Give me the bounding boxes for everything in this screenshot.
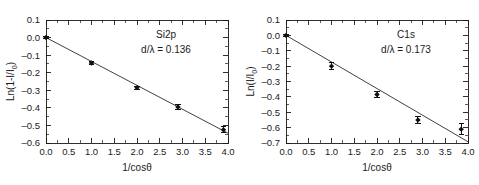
y-tick-label: –0.7 xyxy=(262,137,281,148)
y-axis-ticks-si2p xyxy=(46,20,228,143)
y-tick-label: –0.4 xyxy=(22,102,41,113)
y-tick-label: –0.2 xyxy=(262,61,281,72)
annotation-series-c1s: C1s xyxy=(397,29,415,40)
data-point xyxy=(329,63,334,70)
y-tick-label: –0.3 xyxy=(262,76,281,87)
plot-frame-si2p xyxy=(46,20,228,143)
y-tick-label: –0.1 xyxy=(262,45,281,56)
x-tick-label: 1.5 xyxy=(348,146,361,157)
x-tick-label: 4.0 xyxy=(461,146,474,157)
data-points-c1s xyxy=(283,33,464,135)
data-point xyxy=(175,104,180,109)
x-axis-ticks-si2p xyxy=(46,20,228,143)
annotation-dlambda-c1s: d/λ = 0.173 xyxy=(381,44,431,55)
y-tick-label: 0.1 xyxy=(267,14,280,25)
x-axis-label-c1s: 1/cosθ xyxy=(362,162,392,173)
y-tick-label: –0.4 xyxy=(262,91,281,102)
x-tick-label: 3.0 xyxy=(416,146,429,157)
y-axis-ticks-c1s xyxy=(286,20,468,143)
y-tick-label: –0.1 xyxy=(22,50,41,61)
data-point xyxy=(415,116,420,123)
x-axis-tick-labels-c1s: 0.00.51.01.52.02.53.03.54.0 xyxy=(279,146,474,157)
annotation-series-si2p: Si2p xyxy=(156,29,176,40)
y-axis-label-si2p: Ln(1-I/I0) xyxy=(5,62,19,101)
chart-svg-c1s: 0.00.51.01.52.02.53.03.54.0 0.10.0–0.1–0… xyxy=(240,0,479,185)
y-tick-label: –0.6 xyxy=(262,122,281,133)
x-tick-label: 0.5 xyxy=(302,146,315,157)
x-tick-label: 2.5 xyxy=(153,146,166,157)
x-tick-label: 3.0 xyxy=(176,146,189,157)
fit-line-c1s xyxy=(286,35,468,141)
x-tick-label: 1.0 xyxy=(325,146,338,157)
x-tick-label: 3.5 xyxy=(439,146,452,157)
y-tick-label: –0.3 xyxy=(22,85,41,96)
y-tick-label: –0.5 xyxy=(262,107,281,118)
y-tick-label: –0.5 xyxy=(22,120,41,131)
x-tick-label: 0.0 xyxy=(39,146,52,157)
x-tick-label: 1.5 xyxy=(108,146,121,157)
x-axis-ticks-c1s xyxy=(286,20,468,143)
y-axis-tick-labels-c1s: 0.10.0–0.1–0.2–0.3–0.4–0.5–0.6–0.7 xyxy=(262,14,281,148)
x-tick-label: 2.5 xyxy=(393,146,406,157)
chart-svg-si2p: 0.00.51.01.52.02.53.03.54.0 0.10.0–0.1–0… xyxy=(0,0,239,185)
x-tick-label: 4.0 xyxy=(221,146,234,157)
y-axis-label-text: Ln(1-I/I0) xyxy=(5,62,19,101)
y-tick-label: –0.2 xyxy=(22,67,41,78)
data-point xyxy=(458,124,463,135)
x-tick-label: 2.0 xyxy=(130,146,143,157)
chart-panel-si2p: 0.00.51.01.52.02.53.03.54.0 0.10.0–0.1–0… xyxy=(0,0,239,185)
chart-panel-c1s: 0.00.51.01.52.02.53.03.54.0 0.10.0–0.1–0… xyxy=(240,0,479,185)
y-tick-label: 0.1 xyxy=(27,14,40,25)
x-axis-tick-labels-si2p: 0.00.51.01.52.02.53.03.54.0 xyxy=(39,146,234,157)
plot-frame-c1s xyxy=(286,20,468,143)
data-point xyxy=(283,33,288,38)
data-point xyxy=(89,60,94,65)
data-point xyxy=(43,35,48,40)
y-axis-label-text: Ln(I/I0) xyxy=(245,66,259,96)
x-axis-label-si2p: 1/cosθ xyxy=(122,162,152,173)
data-point xyxy=(134,85,139,90)
y-tick-label: 0.0 xyxy=(27,32,40,43)
figure-two-panel-attenuation-plots: 0.00.51.01.52.02.53.03.54.0 0.10.0–0.1–0… xyxy=(0,0,479,185)
y-axis-tick-labels-si2p: 0.10.0–0.1–0.2–0.3–0.4–0.5–0.6 xyxy=(22,14,41,148)
x-tick-label: 0.5 xyxy=(62,146,75,157)
x-tick-label: 2.0 xyxy=(370,146,383,157)
y-axis-label-c1s: Ln(I/I0) xyxy=(245,66,259,96)
x-tick-label: 0.0 xyxy=(279,146,292,157)
x-tick-label: 3.5 xyxy=(199,146,212,157)
y-tick-label: –0.6 xyxy=(22,137,41,148)
x-tick-label: 1.0 xyxy=(85,146,98,157)
y-tick-label: 0.0 xyxy=(267,30,280,41)
annotation-dlambda-si2p: d/λ = 0.136 xyxy=(141,44,191,55)
data-point xyxy=(374,91,379,98)
